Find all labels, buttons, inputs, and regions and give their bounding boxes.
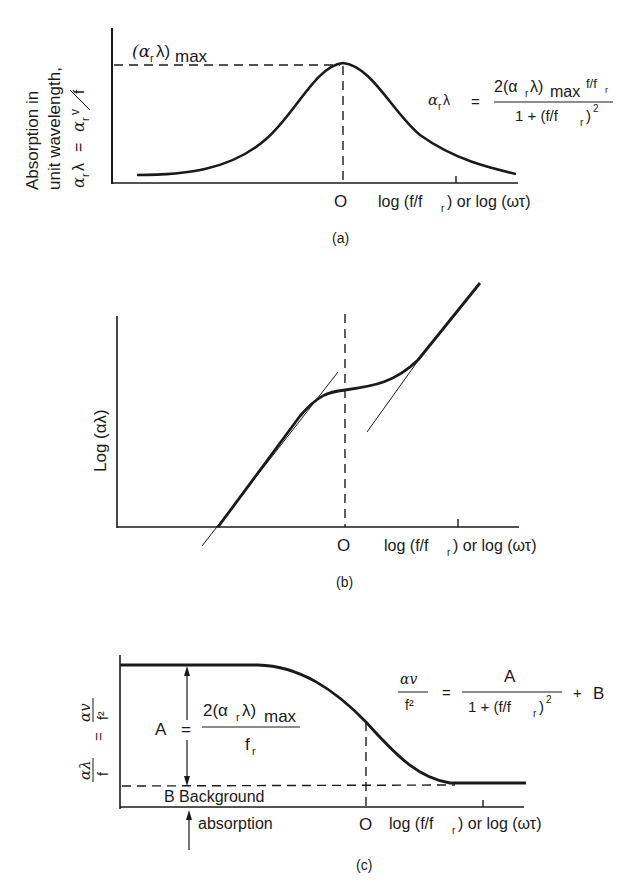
panel-a-y-label-line2: unit wavelength,	[45, 67, 64, 190]
svg-text:) or log (ωτ): ) or log (ωτ)	[453, 537, 536, 554]
svg-text:r: r	[236, 711, 240, 723]
svg-text:r: r	[525, 88, 529, 99]
panel-a-x-label: log (f/f r ) or log (ωτ)	[378, 193, 530, 214]
svg-text:): )	[539, 698, 544, 715]
panel-c: αλ f = αv f² A = 2(α r λ) max	[76, 655, 604, 873]
svg-text:+: +	[573, 684, 582, 701]
svg-text:log (f/f: log (f/f	[384, 537, 429, 554]
svg-text:=: =	[471, 93, 480, 110]
svg-text:r: r	[447, 547, 451, 558]
panel-b-high-frequency-asymptote	[367, 358, 420, 432]
svg-text:αλ: αλ	[76, 760, 94, 780]
svg-text:r: r	[533, 708, 537, 719]
svg-text:αv: αv	[76, 703, 94, 722]
panel-c-A-definition: A = 2(α r λ) max f r	[155, 701, 300, 757]
svg-text:λ: λ	[443, 92, 450, 108]
panel-a-equation: α r λ = 2(α r λ) max f/f r 1 + (f/f r ) …	[428, 76, 613, 128]
svg-text:α: α	[69, 177, 88, 188]
panel-c-caption: (c)	[356, 857, 372, 873]
svg-text:=: =	[181, 720, 191, 739]
svg-text:r: r	[452, 825, 456, 836]
panel-c-y-label: αλ f = αv f²	[76, 698, 111, 782]
svg-text:f²: f²	[95, 711, 111, 720]
svg-text:log (f/f: log (f/f	[378, 193, 423, 210]
svg-text:λ: λ	[70, 163, 87, 171]
svg-text:r: r	[79, 117, 91, 121]
svg-text:max: max	[550, 83, 580, 100]
svg-text:max: max	[175, 47, 208, 66]
panel-b-caption: (b)	[336, 574, 353, 590]
panel-a-y-label-line1: Absorption in	[23, 91, 42, 190]
svg-text:α: α	[69, 121, 88, 132]
svg-text:f/f: f/f	[586, 76, 597, 91]
panel-c-background-dashed-line	[122, 785, 455, 786]
panel-a-peak-label: (α r λ) max	[132, 41, 208, 66]
svg-text:=: =	[70, 143, 87, 152]
panel-a-caption: (a)	[332, 230, 349, 246]
svg-text:2(α: 2(α	[494, 78, 517, 95]
panel-a-y-label-formula: α r λ = α r v f	[68, 89, 91, 188]
svg-text:v: v	[68, 109, 82, 115]
arrow-up-icon	[184, 666, 190, 676]
svg-text:r: r	[605, 85, 608, 95]
svg-text:λ): λ)	[242, 701, 256, 720]
panel-b-origin-label: O	[337, 536, 350, 555]
svg-text:λ): λ)	[530, 78, 543, 95]
svg-text:=: =	[442, 684, 451, 701]
svg-text:=: =	[90, 732, 107, 741]
panel-a-origin-label: O	[334, 192, 347, 211]
diagram-canvas: Absorption in unit wavelength, α r λ = α…	[0, 0, 640, 882]
svg-text:r: r	[441, 203, 445, 214]
arrow-up-icon	[186, 810, 192, 820]
panel-c-absorption-label: absorption	[198, 815, 273, 832]
svg-text:2: 2	[593, 103, 599, 114]
panel-c-x-label: log (f/f r ) or log (ωτ)	[389, 815, 541, 836]
svg-text:A: A	[504, 667, 516, 686]
panel-b-x-label: log (f/f r ) or log (ωτ)	[384, 537, 536, 558]
panel-c-equation: αv f² = A 1 + (f/f r ) 2 + B	[398, 667, 604, 719]
svg-text:1 + (f/f: 1 + (f/f	[468, 698, 512, 715]
panel-a: Absorption in unit wavelength, α r λ = α…	[23, 28, 613, 246]
svg-text:r: r	[580, 117, 584, 128]
svg-text:f: f	[70, 89, 87, 94]
svg-text:2: 2	[546, 694, 552, 705]
svg-text:max: max	[264, 707, 297, 726]
svg-text:λ): λ)	[156, 42, 170, 61]
panel-a-absorption-curve	[137, 63, 516, 175]
svg-text:r: r	[438, 101, 442, 112]
svg-text:2(α: 2(α	[203, 701, 228, 720]
svg-text:log (f/f: log (f/f	[389, 815, 434, 832]
panel-b: Log (αλ) O log (f/f r ) or log (ωτ) (b)	[91, 283, 536, 590]
svg-text:f: f	[95, 772, 111, 776]
svg-text:1 + (f/f: 1 + (f/f	[515, 107, 559, 124]
svg-text:r: r	[252, 745, 256, 757]
svg-text:) or log (ωτ): ) or log (ωτ)	[458, 815, 541, 832]
arrow-down-icon	[184, 776, 190, 786]
panel-c-background-label: B Background	[164, 788, 265, 805]
svg-text:B: B	[593, 684, 604, 703]
svg-text:(α: (α	[132, 41, 151, 61]
svg-text:) or log (ωτ): ) or log (ωτ)	[447, 193, 530, 210]
svg-text:A: A	[155, 720, 167, 739]
svg-text:r: r	[79, 173, 91, 177]
panel-b-y-label: Log (αλ)	[91, 409, 110, 472]
svg-text:αv: αv	[400, 671, 417, 687]
panel-c-origin-label: O	[359, 815, 372, 834]
svg-text:): )	[586, 107, 591, 124]
svg-text:f: f	[245, 735, 250, 754]
svg-text:f²: f²	[405, 697, 414, 713]
svg-text:r: r	[150, 52, 154, 64]
panel-b-log-absorption-curve	[218, 283, 480, 527]
svg-text:α: α	[428, 91, 438, 109]
